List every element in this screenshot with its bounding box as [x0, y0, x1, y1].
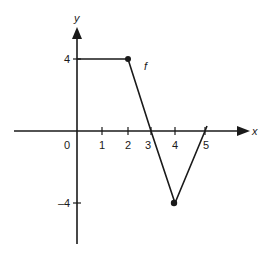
x-axis-arrow-icon: [237, 126, 250, 136]
x-tick-label-1: 1: [99, 139, 105, 151]
point-4-neg4: [171, 200, 177, 206]
x-tick-label-5: 5: [203, 139, 209, 151]
x-tick-label-4: 4: [172, 139, 178, 151]
y-tick-label-neg4: –4: [58, 197, 70, 209]
x-axis: x 0 1 2 3 4 5: [14, 125, 258, 151]
x-tick-label-2: 2: [125, 139, 131, 151]
curve-label-f: f: [144, 60, 148, 72]
x-tick-label-0: 0: [64, 139, 70, 151]
point-2-4: [125, 56, 131, 62]
x-tick-label-3: 3: [145, 139, 151, 151]
y-axis-label: y: [73, 12, 81, 24]
y-axis: y 4 –4: [58, 12, 82, 244]
y-tick-label-4: 4: [64, 53, 70, 65]
function-graph: x 0 1 2 3 4 5 y 4 –4 f: [0, 0, 266, 256]
x-axis-label: x: [251, 125, 258, 137]
y-axis-arrow-icon: [72, 27, 82, 39]
